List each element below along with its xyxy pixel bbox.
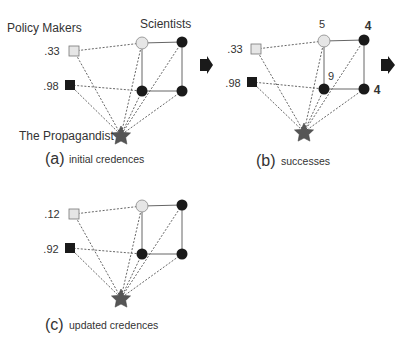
dotted-edges <box>252 40 364 132</box>
policy-credence-2: .92 <box>43 243 58 255</box>
scientist-light-node <box>136 37 148 49</box>
scientist-light-node <box>318 35 330 47</box>
scientist-dark-node <box>319 84 330 95</box>
policy-maker-light-node <box>69 209 79 219</box>
panel-c: .12 .92 (c) updated credences <box>43 200 187 334</box>
solid-edges <box>142 42 182 91</box>
panel-letter: (c) <box>45 316 64 333</box>
policy-maker-dark-node <box>65 243 75 253</box>
panel-caption: updated credences <box>69 319 158 331</box>
policy-maker-light-node <box>69 46 79 56</box>
scientist-dark-node <box>177 37 188 48</box>
scientists-heading: Scientists <box>140 17 191 31</box>
arrow-right-icon <box>381 56 395 74</box>
scientist-dark-node <box>177 86 188 97</box>
dotted-edges <box>70 42 182 135</box>
panel-a: Policy Makers Scientists .33 .98 <box>7 17 191 167</box>
policy-credence-2: .98 <box>225 77 240 89</box>
scientist-dark-node <box>359 35 370 46</box>
policy-maker-light-node <box>251 44 261 54</box>
panel-letter: (a) <box>45 150 65 167</box>
policy-credence-2: .98 <box>43 80 58 92</box>
policy-makers-heading: Policy Makers <box>7 21 82 35</box>
policy-maker-dark-node <box>247 77 257 87</box>
arrow-right-icon <box>200 56 213 74</box>
scientist-dark-node <box>137 249 148 260</box>
dotted-edges <box>70 205 182 298</box>
scientist-dark-node <box>359 84 370 95</box>
scientist-dark-node <box>177 200 188 211</box>
panel-caption: successes <box>281 155 330 167</box>
scientist-dark-node <box>177 249 188 260</box>
policy-maker-dark-node <box>65 80 75 90</box>
policy-credence-1: .12 <box>44 208 59 220</box>
policy-credence-1: .33 <box>44 45 59 57</box>
propagandist-diagram: Policy Makers Scientists .33 .98 <box>0 0 410 347</box>
solid-edges <box>142 205 182 254</box>
panel-b: .33 .98 5 4 9 4 (b) successes <box>225 18 380 169</box>
success-count: 5 <box>319 18 325 30</box>
panel-letter: (b) <box>256 152 276 169</box>
success-count: 9 <box>328 70 334 82</box>
success-count: 4 <box>374 83 381 97</box>
policy-credence-1: .33 <box>227 43 242 55</box>
scientist-dark-node <box>137 86 148 97</box>
scientist-light-node <box>136 200 148 212</box>
success-count: 4 <box>365 19 372 33</box>
panel-caption: initial credences <box>69 153 144 165</box>
propagandist-label: The Propagandist <box>19 129 114 143</box>
